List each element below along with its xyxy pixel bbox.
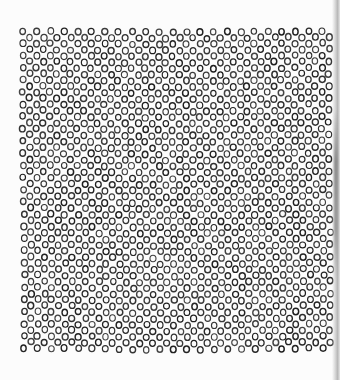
- page-edge-shadow-dark: [334, 110, 338, 280]
- circle-pattern-figure: [0, 0, 340, 380]
